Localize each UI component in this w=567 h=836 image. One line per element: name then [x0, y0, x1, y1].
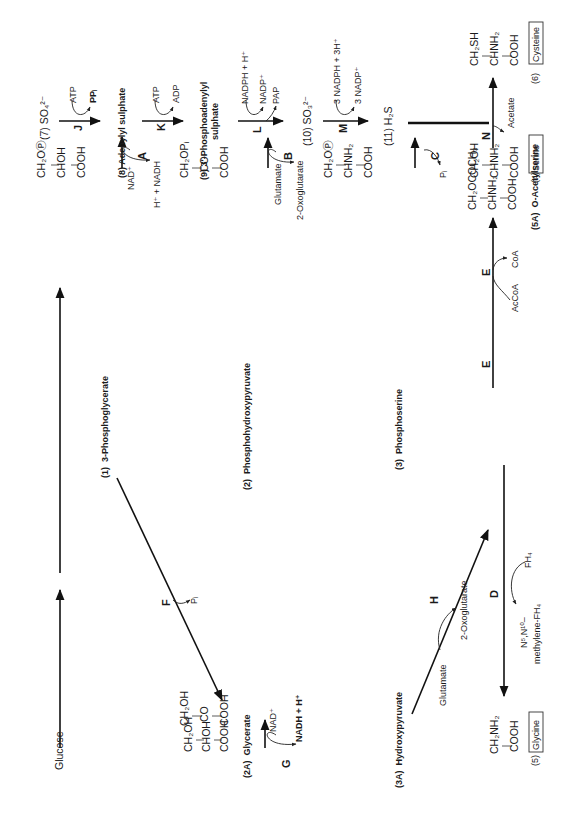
svg-text:2-Oxoglutarate: 2-Oxoglutarate — [459, 580, 469, 640]
svg-text:D: D — [488, 590, 500, 598]
reaction-M: M 3 NADPH + 3H⁺ 3 NADP⁺ — [323, 38, 368, 133]
reaction-G: G NAD⁺ NADH + H⁺ — [265, 694, 304, 768]
svg-text:CH₂NH₂: CH₂NH₂ — [488, 716, 500, 754]
compound-3-phosphoglycerate: CH₂OⓅ CHOH COOH (1)3-Phosphoglycerate — [35, 140, 110, 478]
reaction-B: B Glutamate 2-Oxoglutarate — [268, 138, 305, 220]
compound-glycine: CH₂NH₂ COOH (5) Glycine — [488, 712, 543, 766]
compound-sulphate: (7) SO₄²⁻ — [38, 96, 50, 140]
svg-text:M: M — [337, 124, 349, 133]
svg-text:3 NADP⁺: 3 NADP⁺ — [353, 66, 363, 104]
compound-cysteine: CH₂SH CHNH₂ COOH (6) Cysteine — [468, 22, 543, 84]
svg-text:CHNH₂: CHNH₂ — [488, 144, 500, 178]
svg-text:COOH: COOH — [362, 147, 374, 179]
svg-text:CHNH₂: CHNH₂ — [342, 144, 354, 178]
svg-text:CH₂OH: CH₂OH — [182, 717, 194, 752]
reaction-J: J ATP PPᵢ — [59, 86, 100, 131]
svg-text:CH₂OPᵢ: CH₂OPᵢ — [178, 142, 190, 178]
reaction-A: A NAD⁺ H⁺ + NADH — [122, 137, 162, 208]
serine-cysteine-pathway-diagram: Glucose CH₂OⓅ CHOH COOH (1)3-Phosphoglyc… — [0, 0, 567, 836]
svg-text:3 NADPH + 3H⁺: 3 NADPH + 3H⁺ — [332, 38, 342, 104]
svg-text:L: L — [251, 126, 263, 133]
svg-text:C: C — [429, 152, 441, 160]
svg-text:F: F — [160, 599, 172, 606]
svg-text:Glutamate: Glutamate — [273, 163, 283, 205]
svg-text:CH₂OⓅ: CH₂OⓅ — [322, 140, 334, 178]
svg-text:N: N — [480, 132, 492, 140]
svg-text:(1)3-Phosphoglycerate: (1)3-Phosphoglycerate — [100, 376, 110, 478]
svg-text:E: E — [480, 361, 492, 368]
svg-text:E: E — [480, 269, 492, 276]
svg-text:ATP: ATP — [151, 86, 161, 103]
svg-text:NADP⁺: NADP⁺ — [258, 74, 268, 104]
svg-text:(6): (6) — [530, 73, 540, 84]
svg-text:methylene-FH₄: methylene-FH₄ — [532, 603, 542, 664]
reaction-H: H Glutamate 2-Oxoglutarate — [412, 530, 488, 714]
cysteine-boxed-label: Cysteine — [531, 27, 541, 62]
svg-text:(2)Phosphohydroxypyruvate: (2)Phosphohydroxypyruvate — [242, 363, 252, 490]
svg-text:H⁺ + NADH: H⁺ + NADH — [152, 161, 162, 208]
svg-text:CH₂OⓅ: CH₂OⓅ — [35, 140, 47, 178]
svg-text:2-Oxoglutarate: 2-Oxoglutarate — [295, 160, 305, 220]
svg-text:CoA: CoA — [510, 250, 520, 268]
svg-text:COOH: COOH — [75, 147, 87, 179]
compound-glycerate: CH₂OH CHOH COOH (2A)Glycerate — [182, 714, 252, 778]
compound-hydrogen-sulphide: (11) H₂S — [382, 107, 394, 146]
svg-text:COOH: COOH — [508, 147, 520, 179]
glucose-label: Glucose — [53, 731, 65, 770]
svg-text:CHOH: CHOH — [200, 721, 212, 752]
svg-text:(9) 3′-Phosphoadenylyl: (9) 3′-Phosphoadenylyl — [199, 82, 209, 180]
svg-text:NAD⁺: NAD⁺ — [126, 166, 136, 190]
svg-text:sulphate: sulphate — [210, 103, 220, 140]
svg-text:PAP: PAP — [271, 87, 281, 104]
svg-text:COOH: COOH — [218, 147, 230, 179]
svg-text:CH₂OCOCH₃: CH₂OCOCH₃ — [466, 147, 478, 210]
svg-text:Glutamate: Glutamate — [438, 664, 448, 706]
svg-text:(2A)Glycerate: (2A)Glycerate — [242, 714, 252, 778]
svg-text:B: B — [282, 152, 294, 160]
svg-text:CHNH₂: CHNH₂ — [488, 32, 500, 66]
svg-text:CHOH: CHOH — [55, 147, 67, 178]
svg-text:NADH + H⁺: NADH + H⁺ — [294, 694, 304, 742]
reaction-L: L NADPH + H⁺ NADP⁺ PAP — [238, 51, 283, 133]
svg-text:COOH: COOH — [508, 35, 520, 67]
svg-text:G: G — [280, 759, 292, 768]
svg-text:K: K — [155, 123, 167, 131]
reaction-K: K ATP ADP — [142, 84, 183, 131]
svg-text:COOH: COOH — [218, 721, 230, 753]
svg-text:ATP: ATP — [68, 86, 78, 103]
svg-text:Pᵢ: Pᵢ — [438, 171, 448, 178]
svg-text:FH₄: FH₄ — [523, 552, 533, 568]
svg-text:AcCoA: AcCoA — [510, 284, 520, 312]
compound-adenylyl-sulphate: (8) Adenylyl sulphate — [117, 88, 127, 178]
svg-text:J: J — [72, 125, 84, 131]
svg-text:(5A)O-Acetylserine: (5A)O-Acetylserine — [530, 144, 540, 230]
svg-text:PPᵢ: PPᵢ — [88, 89, 98, 103]
glycine-boxed-label: Glycine — [531, 720, 541, 750]
svg-text:N⁵,N¹⁰–: N⁵,N¹⁰– — [519, 617, 529, 648]
svg-text:Pᵢ: Pᵢ — [189, 597, 199, 604]
svg-text:ADP: ADP — [171, 84, 181, 103]
svg-text:CHNH₂: CHNH₂ — [486, 176, 498, 210]
svg-text:H: H — [428, 596, 440, 604]
reaction-D: D FH₄ N⁵,N¹⁰– methylene-FH₄ — [488, 465, 542, 696]
svg-text:Acetate: Acetate — [506, 97, 516, 128]
reaction-C: C Pᵢ — [415, 138, 448, 178]
svg-text:(5): (5) — [530, 755, 540, 766]
reaction-E: E E AcCoA CoA — [480, 218, 520, 388]
svg-text:A: A — [136, 152, 148, 160]
compound-sulphite: (10) SO₃²⁻ — [301, 96, 313, 146]
svg-text:(3)Phosphoserine: (3)Phosphoserine — [394, 389, 404, 470]
svg-text:COOH: COOH — [506, 179, 518, 211]
reaction-N: N Acetate — [408, 78, 516, 148]
svg-text:(3A)Hydroxypyruvate: (3A)Hydroxypyruvate — [394, 692, 404, 788]
svg-text:CO: CO — [198, 706, 210, 722]
svg-text:NAD⁺: NAD⁺ — [268, 708, 278, 732]
compound-phosphohydroxypyruvate: CH₂OPᵢ CO COOH (2)Phosphohydroxypyruvate — [178, 142, 252, 490]
compound-phosphoserine: CH₂OⓅ CHNH₂ COOH (3)Phosphoserine — [322, 140, 404, 470]
svg-text:NADPH + H⁺: NADPH + H⁺ — [240, 51, 250, 104]
svg-text:COOH: COOH — [508, 721, 520, 753]
svg-text:CH₂SH: CH₂SH — [468, 32, 480, 66]
reaction-F: F Pᵢ — [117, 478, 222, 700]
